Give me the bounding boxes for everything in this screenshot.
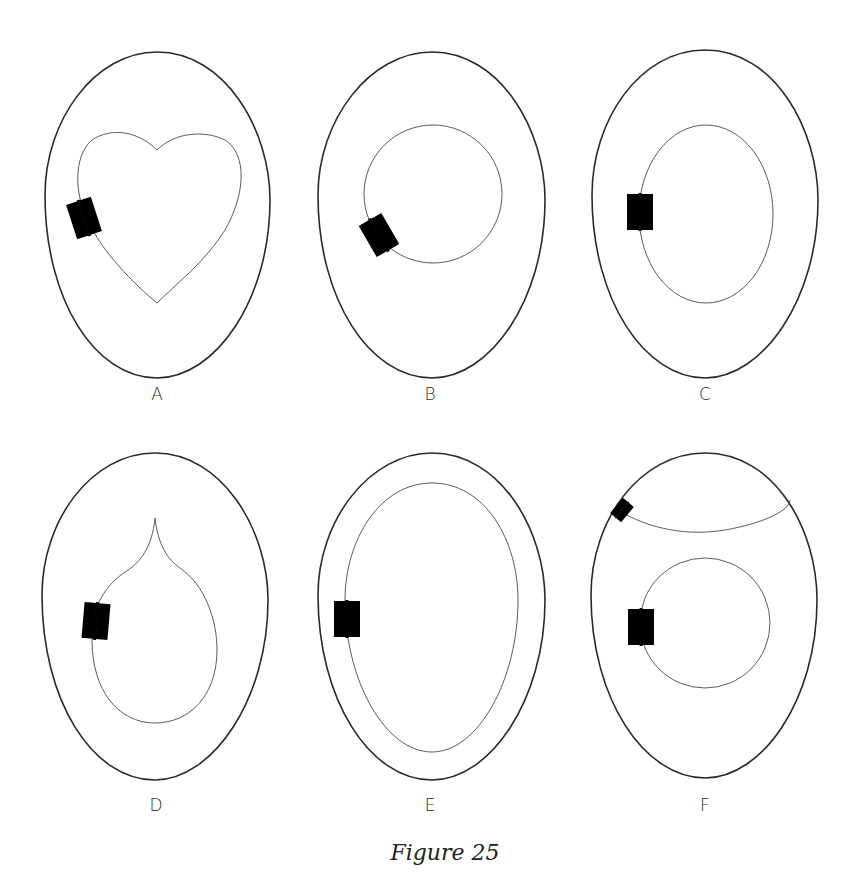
egg-d	[42, 453, 268, 780]
circle-door	[640, 558, 770, 688]
figure-caption: Figure 25	[0, 840, 863, 865]
panel-label-d: D	[136, 795, 176, 815]
heart-door	[78, 132, 241, 303]
hinge-icon	[610, 497, 634, 522]
hinge-icon	[627, 193, 653, 231]
egg-b	[318, 52, 545, 378]
egg-a	[45, 52, 270, 378]
hinge-icon	[628, 608, 654, 646]
panel-label-b: B	[410, 384, 450, 404]
panel-label-c: C	[685, 384, 725, 404]
egg-door	[345, 483, 518, 752]
egg-e	[318, 453, 545, 780]
panel-label-a: A	[137, 384, 177, 404]
top-cap-door	[618, 500, 790, 532]
panel-label-f: F	[685, 795, 725, 815]
figure-diagram	[0, 0, 863, 893]
hinge-icon	[81, 601, 110, 641]
teardrop-door	[92, 518, 217, 723]
oval-door	[639, 125, 773, 303]
egg-f	[591, 453, 817, 778]
hinge-icon	[334, 600, 360, 638]
hinge-icon	[66, 196, 102, 240]
egg-c	[592, 50, 818, 378]
panel-label-e: E	[410, 795, 450, 815]
